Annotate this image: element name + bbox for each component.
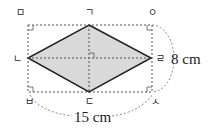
width-arc-left (30, 95, 72, 116)
right-angle-mark-bottom-right (147, 87, 152, 92)
label-bottom: ㄷ (85, 96, 94, 107)
label-top-left: ㅁ (16, 7, 25, 18)
width-measure: 15 cm (74, 109, 111, 125)
label-top: ㄱ (85, 7, 94, 18)
label-left: ㄴ (13, 53, 22, 64)
right-angle-mark-top-right (147, 25, 152, 30)
rhombus-diagram: ㅁ ㄱ ㅇ ㄴ ㄹ ㅂ ㄷ ㅅ 8 cm 15 cm (0, 0, 215, 139)
label-right: ㄹ (156, 53, 165, 64)
right-angle-mark-top-left (28, 25, 33, 30)
right-angle-mark-bottom-left (28, 87, 33, 92)
label-top-right: ㅇ (148, 7, 157, 18)
label-bottom-right: ㅅ (151, 96, 160, 107)
label-bottom-left: ㅂ (25, 96, 34, 107)
height-measure: 8 cm (171, 51, 201, 67)
width-arc-right (112, 95, 152, 116)
